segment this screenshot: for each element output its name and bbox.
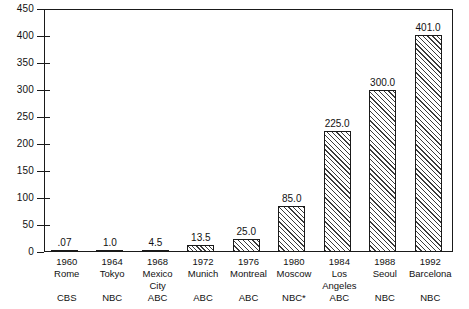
x-axis-year-label: 1992 xyxy=(408,256,453,268)
x-axis-group-1976: 1976MontrealABC xyxy=(226,254,271,304)
y-axis-inner-tick xyxy=(44,225,50,226)
x-axis-group-1972: 1972MunichABC xyxy=(180,254,225,304)
bar-value-label: 401.0 xyxy=(401,22,456,33)
x-axis-city-label: Los xyxy=(317,268,362,280)
bar-1976 xyxy=(233,239,260,253)
bar-slot: .07 xyxy=(44,9,89,252)
bars-layer: .071.04.513.525.085.0225.0300.0401.0 xyxy=(44,9,453,252)
bar-value-label: 85.0 xyxy=(264,193,319,204)
x-axis-city-label: Tokyo xyxy=(89,268,134,280)
y-axis-tick-mark xyxy=(37,252,44,253)
bar-1992 xyxy=(415,35,442,252)
bar-value-label: 25.0 xyxy=(219,226,274,237)
bar-slot: 1.0 xyxy=(89,9,134,252)
y-axis-tick-label: 400 xyxy=(17,30,34,42)
x-axis-year-label: 1984 xyxy=(317,256,362,268)
x-axis-network-label: NBC xyxy=(408,292,453,304)
x-axis-year-label: 1968 xyxy=(135,256,180,268)
x-axis-spacer xyxy=(89,280,134,292)
bar-slot: 4.5 xyxy=(135,9,180,252)
y-axis-tick-mark xyxy=(37,144,44,145)
x-axis-group-1968: 1968MexicoCityABC xyxy=(135,254,180,304)
x-axis-city-label: Barcelona xyxy=(408,268,453,280)
bar-value-label: 225.0 xyxy=(310,118,365,129)
y-axis-tick-label: 250 xyxy=(17,111,34,123)
y-axis-tick-mark xyxy=(37,171,44,172)
x-axis-year-label: 1964 xyxy=(89,256,134,268)
x-axis-group-1960: 1960RomeCBS xyxy=(44,254,89,304)
x-axis-network-label: ABC xyxy=(180,292,225,304)
x-axis-network-label: NBC* xyxy=(271,292,316,304)
x-axis-group-1980: 1980MoscowNBC* xyxy=(271,254,316,304)
bar-1988 xyxy=(369,90,396,252)
bar-1972 xyxy=(187,245,214,252)
y-axis-tick-label: 450 xyxy=(17,3,34,15)
x-axis-spacer xyxy=(362,280,407,292)
bar-1964 xyxy=(96,250,123,253)
y-axis-tick-mark xyxy=(37,117,44,118)
x-axis-year-label: 1972 xyxy=(180,256,225,268)
x-axis-network-label: NBC xyxy=(89,292,134,304)
y-axis-tick-label: 0 xyxy=(28,246,34,258)
x-axis-spacer xyxy=(271,280,316,292)
bar-slot: 85.0 xyxy=(271,9,316,252)
x-axis-network-label: NBC xyxy=(362,292,407,304)
bar-1968 xyxy=(142,250,169,253)
x-axis-spacer xyxy=(408,280,453,292)
y-axis-inner-tick xyxy=(44,198,50,199)
x-axis-spacer xyxy=(44,280,89,292)
x-axis-city-label: Seoul xyxy=(362,268,407,280)
bar-chart-figure: 450400350300250200150100500 .071.04.513.… xyxy=(0,0,469,309)
y-axis-tick-label: 300 xyxy=(17,84,34,96)
y-axis-tick-mark xyxy=(37,90,44,91)
x-axis-year-label: 1976 xyxy=(226,256,271,268)
x-axis-spacer xyxy=(180,280,225,292)
bar-slot: 13.5 xyxy=(180,9,225,252)
x-axis-spacer xyxy=(226,280,271,292)
y-axis-tick-mark xyxy=(37,36,44,37)
y-axis-tick-mark xyxy=(37,9,44,10)
bar-1960 xyxy=(51,250,78,253)
bar-slot: 25.0 xyxy=(226,9,271,252)
x-axis-group-1964: 1964TokyoNBC xyxy=(89,254,134,304)
x-axis-city-label: Rome xyxy=(44,268,89,280)
y-axis-tick-label: 150 xyxy=(17,165,34,177)
x-axis-labels: 1960RomeCBS1964TokyoNBC1968MexicoCityABC… xyxy=(44,254,453,309)
x-axis-group-1984: 1984LosAngelesABC xyxy=(317,254,362,304)
y-axis-tick-label: 50 xyxy=(22,219,34,231)
y-axis-tick-mark xyxy=(37,63,44,64)
x-axis-network-label: CBS xyxy=(44,292,89,304)
x-axis-city-label-cont: City xyxy=(135,280,180,292)
y-axis-inner-tick xyxy=(44,144,50,145)
y-axis-tick-mark xyxy=(37,225,44,226)
y-axis-inner-tick xyxy=(44,90,50,91)
y-axis-tick-label: 100 xyxy=(17,192,34,204)
y-axis-tick-label: 200 xyxy=(17,138,34,150)
x-axis-city-label-cont: Angeles xyxy=(317,280,362,292)
x-axis-group-1992: 1992BarcelonaNBC xyxy=(408,254,453,304)
y-axis-inner-tick xyxy=(44,171,50,172)
x-axis-city-label: Munich xyxy=(180,268,225,280)
bar-slot: 300.0 xyxy=(362,9,407,252)
y-axis-tick-mark xyxy=(37,198,44,199)
bar-slot: 401.0 xyxy=(408,9,453,252)
y-axis-tick-label: 350 xyxy=(17,57,34,69)
x-axis-city-label: Mexico xyxy=(135,268,180,280)
x-axis-network-label: ABC xyxy=(226,292,271,304)
x-axis-network-label: ABC xyxy=(317,292,362,304)
x-axis-year-label: 1988 xyxy=(362,256,407,268)
x-axis-year-label: 1980 xyxy=(271,256,316,268)
bar-slot: 225.0 xyxy=(317,9,362,252)
y-axis: 450400350300250200150100500 xyxy=(0,0,44,253)
x-axis-city-label: Moscow xyxy=(271,268,316,280)
bar-1980 xyxy=(278,206,305,252)
bar-1984 xyxy=(324,131,351,253)
x-axis-city-label: Montreal xyxy=(226,268,271,280)
x-axis-year-label: 1960 xyxy=(44,256,89,268)
y-axis-inner-tick xyxy=(44,63,50,64)
x-axis-network-label: ABC xyxy=(135,292,180,304)
y-axis-inner-tick xyxy=(44,117,50,118)
x-axis-group-1988: 1988SeoulNBC xyxy=(362,254,407,304)
y-axis-inner-tick xyxy=(44,36,50,37)
bar-value-label: 300.0 xyxy=(355,77,410,88)
